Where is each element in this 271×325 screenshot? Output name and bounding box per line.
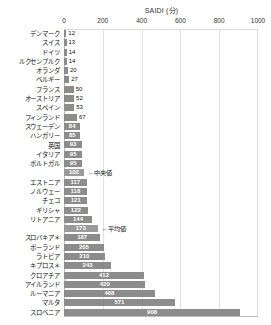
category-label: ドイツ bbox=[0, 48, 62, 57]
bar-value-label: 67 bbox=[77, 114, 86, 121]
bar-track: 102←中央値 bbox=[64, 168, 271, 177]
bar-row: イタリア95 bbox=[0, 150, 271, 159]
bar-track: 205 bbox=[64, 243, 271, 252]
x-tick-800: 800 bbox=[214, 17, 225, 24]
bar-value-label: 205 bbox=[65, 244, 103, 251]
bar-row: スイス13 bbox=[0, 38, 271, 47]
bar-track: 52 bbox=[64, 94, 271, 103]
category-label: キプロス＊ bbox=[0, 261, 62, 270]
bar-row: ルクセンブルク14 bbox=[0, 57, 271, 66]
bar-value-label: 412 bbox=[65, 272, 143, 279]
bar-track: 468 bbox=[64, 289, 271, 298]
category-label: デンマーク bbox=[0, 29, 62, 38]
bar-track: 27 bbox=[64, 75, 271, 84]
category-label: クロアチア bbox=[0, 271, 62, 280]
category-label: スウェーデン bbox=[0, 122, 62, 131]
category-label: エストニア bbox=[0, 178, 62, 187]
bar-track: 13 bbox=[64, 38, 271, 47]
category-label: リトアニア bbox=[0, 215, 62, 224]
bar-row: キプロス＊243 bbox=[0, 261, 271, 270]
category-label: フィンランド bbox=[0, 113, 62, 122]
bar-row: ノルウェー118 bbox=[0, 187, 271, 196]
bar-value-label: 173 bbox=[65, 225, 97, 232]
bar-track: 144 bbox=[64, 215, 271, 224]
x-tick-600: 600 bbox=[175, 17, 186, 24]
chart-container: SAIDI (分) 02004006008001000 デンマーク12スイス13… bbox=[0, 0, 271, 325]
bar-value-label: 243 bbox=[65, 262, 110, 269]
bar-track: 420 bbox=[64, 280, 271, 289]
bar-value-label: 84 bbox=[65, 123, 79, 130]
bar-track: 95 bbox=[64, 150, 271, 159]
bar-track: 908 bbox=[64, 308, 271, 317]
bar bbox=[64, 86, 74, 93]
bar-track: 243 bbox=[64, 261, 271, 270]
category-label: オーストリア bbox=[0, 94, 62, 103]
bar-value-label: 20 bbox=[68, 67, 77, 74]
x-tick-200: 200 bbox=[97, 17, 108, 24]
bar-track: 412 bbox=[64, 271, 271, 280]
category-label: ポルトガル bbox=[0, 159, 62, 168]
category-label: ラトビア bbox=[0, 252, 62, 261]
category-label: オランダ bbox=[0, 66, 62, 75]
bar-value-label: 85 bbox=[65, 132, 79, 139]
category-label: ノルウェー bbox=[0, 187, 62, 196]
bar-row: 102←中央値 bbox=[0, 168, 271, 177]
bar-track: 118 bbox=[64, 187, 271, 196]
category-label: ギリシャ bbox=[0, 206, 62, 215]
bar-track: 12 bbox=[64, 29, 271, 38]
category-label: スイス bbox=[0, 38, 62, 47]
bar-track: 571 bbox=[64, 298, 271, 307]
bar-value-label: 468 bbox=[65, 290, 154, 297]
bar-value-label: 95 bbox=[65, 151, 81, 158]
bar-row: オランダ20 bbox=[0, 66, 271, 75]
bar-track: 20 bbox=[64, 66, 271, 75]
category-label: ポーランド bbox=[0, 243, 62, 252]
category-label: 英国 bbox=[0, 141, 62, 150]
category-label: フランス bbox=[0, 85, 62, 94]
x-tick-400: 400 bbox=[136, 17, 147, 24]
bar-row: ベルギー27 bbox=[0, 75, 271, 84]
bar-row: マルタ571 bbox=[0, 298, 271, 307]
bar-row: アイルランド420 bbox=[0, 280, 271, 289]
bar-value-label: 420 bbox=[65, 281, 144, 288]
bar-value-label: 908 bbox=[65, 309, 239, 316]
bar-track: 187 bbox=[64, 233, 271, 242]
bar-row: ハンガリー85 bbox=[0, 131, 271, 140]
bar-track: 84 bbox=[64, 122, 271, 131]
bar-track: 93 bbox=[64, 140, 271, 149]
bar-value-label: 27 bbox=[69, 76, 78, 83]
bar-value-label: 95 bbox=[65, 160, 81, 167]
category-label: アイルランド bbox=[0, 280, 62, 289]
bar-track: 117 bbox=[64, 178, 271, 187]
bar-value-label: 571 bbox=[65, 299, 174, 306]
bar-track: 210 bbox=[64, 252, 271, 261]
bar-row: ルーマニア468 bbox=[0, 289, 271, 298]
bar bbox=[64, 95, 74, 102]
bar-value-label: 210 bbox=[65, 253, 104, 260]
bar-track: 95 bbox=[64, 159, 271, 168]
bar-value-label: 144 bbox=[65, 216, 91, 223]
bar-value-label: 13 bbox=[67, 39, 76, 46]
bar-row: スウェーデン84 bbox=[0, 122, 271, 131]
bar-track: 50 bbox=[64, 85, 271, 94]
bar-row: フランス50 bbox=[0, 85, 271, 94]
bar-value-label: 122 bbox=[65, 207, 87, 214]
bar-value-label: 14 bbox=[67, 58, 76, 65]
bar-track: 67 bbox=[64, 113, 271, 122]
bar-row: ポルトガル95 bbox=[0, 159, 271, 168]
bar-row: ドイツ14 bbox=[0, 48, 271, 57]
annotation-label: ←中央値 bbox=[88, 169, 112, 176]
bar-track: 173←平均値 bbox=[64, 224, 271, 233]
bar-value-label: 12 bbox=[66, 30, 75, 37]
bar-row: デンマーク12 bbox=[0, 29, 271, 38]
bar-row: スロバキア＊187 bbox=[0, 233, 271, 242]
bar-row: スロベニア908 bbox=[0, 308, 271, 317]
bar-track: 53 bbox=[64, 103, 271, 112]
bar-value-label: 118 bbox=[65, 188, 86, 195]
x-tick-0: 0 bbox=[62, 17, 66, 24]
bar-value-label: 53 bbox=[74, 104, 83, 111]
bar-row: ポーランド205 bbox=[0, 243, 271, 252]
bar-row: 英国93 bbox=[0, 140, 271, 149]
category-label: スペイン bbox=[0, 103, 62, 112]
x-tick-1000: 1000 bbox=[251, 17, 265, 24]
